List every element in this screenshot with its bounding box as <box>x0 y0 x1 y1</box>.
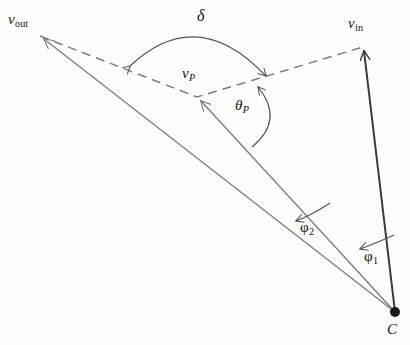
label-theta-p-sub: P <box>242 104 249 115</box>
angle-arc-delta <box>130 37 266 76</box>
angle-arc-theta-p <box>252 87 270 147</box>
label-phi-1-sub: 1 <box>373 255 378 266</box>
label-phi-2-sub: 2 <box>309 226 314 237</box>
label-center-c-glyph: C <box>387 321 397 337</box>
vector-v-out <box>44 39 395 312</box>
vector-diagram-canvas <box>0 0 410 345</box>
label-v-p-sub: P <box>189 72 196 83</box>
label-v-p: vP <box>182 66 195 83</box>
label-v-out: vout <box>8 12 28 29</box>
label-delta-glyph: δ <box>197 7 204 24</box>
angle-arc-phi-1 <box>360 235 394 249</box>
center-point-dot <box>390 307 400 317</box>
label-phi-1: φ1 <box>364 249 378 266</box>
label-phi-1-glyph: φ <box>364 248 373 264</box>
vector-v-p <box>201 101 395 312</box>
vector-diagram-figure: vout vin vP δ θP φ2 φ1 C <box>0 0 410 345</box>
label-v-in-sub: in <box>355 22 363 33</box>
label-theta-p: θP <box>235 98 249 115</box>
dashed-chord-line <box>40 36 363 97</box>
label-v-out-sub: out <box>15 18 28 29</box>
label-v-in: vin <box>348 16 363 33</box>
label-v-out-base: v <box>8 11 15 27</box>
label-delta: δ <box>197 8 204 24</box>
vector-v-in <box>364 51 395 312</box>
label-v-in-base: v <box>348 15 355 31</box>
label-center-c: C <box>387 322 397 337</box>
label-phi-2: φ2 <box>300 220 314 237</box>
label-v-p-base: v <box>182 65 189 81</box>
label-phi-2-glyph: φ <box>300 219 309 235</box>
